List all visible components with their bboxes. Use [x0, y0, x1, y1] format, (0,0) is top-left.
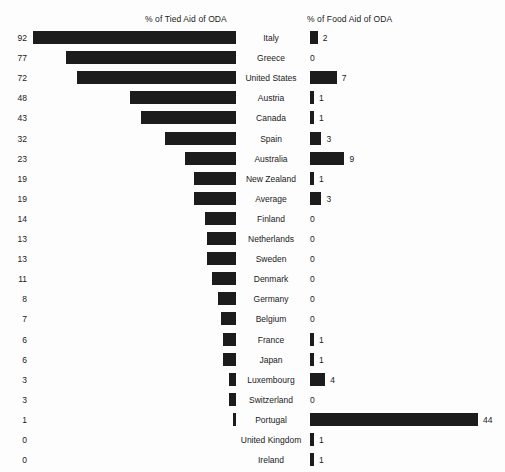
country-label: Luxembourg	[240, 370, 302, 390]
left-bar-track	[0, 450, 236, 470]
chart-row: 6France1	[0, 330, 505, 350]
left-bar-track	[0, 370, 236, 390]
left-bar	[221, 312, 236, 325]
left-bar-track	[0, 309, 236, 329]
left-bar	[165, 132, 236, 145]
right-value-label: 9	[349, 149, 354, 169]
right-value-label: 3	[326, 129, 331, 149]
country-label: Belgium	[240, 309, 302, 329]
chart-row: 72United States7	[0, 68, 505, 88]
chart-row: 11Denmark0	[0, 269, 505, 289]
left-bar	[212, 272, 236, 285]
right-bar	[310, 31, 318, 44]
right-bar	[310, 433, 314, 446]
left-column-header: % of Tied Aid of ODA	[145, 14, 227, 24]
left-bar	[66, 51, 236, 64]
chart-row: 7Belgium0	[0, 309, 505, 329]
country-label: Netherlands	[240, 229, 302, 249]
country-label: Switzerland	[240, 390, 302, 410]
country-label: United States	[240, 68, 302, 88]
right-value-label: 3	[326, 189, 331, 209]
right-bar	[310, 413, 478, 426]
chart-row: 19Average3	[0, 189, 505, 209]
chart-row: 0United Kingdom1	[0, 430, 505, 450]
right-value-label: 7	[342, 68, 347, 88]
left-bar-track	[0, 289, 236, 309]
left-bar-track	[0, 149, 236, 169]
right-bar	[310, 152, 344, 165]
left-bar-track	[0, 88, 236, 108]
right-value-label: 1	[319, 350, 324, 370]
right-value-label: 0	[310, 48, 315, 68]
right-bar	[310, 132, 321, 145]
chart-row: 43Canada1	[0, 108, 505, 128]
bar-chart-tied-and-food-aid: % of Tied Aid of ODA % of Food Aid of OD…	[0, 0, 505, 472]
right-value-label: 1	[319, 88, 324, 108]
left-bar	[141, 111, 236, 124]
left-bar-track	[0, 229, 236, 249]
country-label: Average	[240, 189, 302, 209]
left-bar-track	[0, 108, 236, 128]
chart-row: 13Netherlands0	[0, 229, 505, 249]
chart-row: 19New Zealand1	[0, 169, 505, 189]
country-label: France	[240, 330, 302, 350]
chart-row: 92Italy2	[0, 28, 505, 48]
chart-row: 3Luxembourg4	[0, 370, 505, 390]
chart-row: 8Germany0	[0, 289, 505, 309]
left-bar-track	[0, 350, 236, 370]
country-label: Germany	[240, 289, 302, 309]
chart-row: 77Greece0	[0, 48, 505, 68]
left-bar	[130, 91, 236, 104]
right-value-label: 1	[319, 330, 324, 350]
country-label: Spain	[240, 129, 302, 149]
right-bar	[310, 172, 314, 185]
left-bar	[223, 353, 236, 366]
left-bar-track	[0, 269, 236, 289]
country-label: Japan	[240, 350, 302, 370]
country-label: United Kingdom	[240, 430, 302, 450]
left-bar-track	[0, 189, 236, 209]
country-label: Portugal	[240, 410, 302, 430]
right-column-header: % of Food Aid of ODA	[307, 14, 392, 24]
left-bar	[229, 393, 236, 406]
right-value-label: 44	[483, 410, 492, 430]
right-value-label: 0	[310, 229, 315, 249]
right-value-label: 0	[310, 269, 315, 289]
right-value-label: 0	[310, 309, 315, 329]
right-value-label: 1	[319, 430, 324, 450]
right-value-label: 0	[310, 289, 315, 309]
country-label: New Zealand	[240, 169, 302, 189]
left-bar	[194, 192, 236, 205]
left-bar	[205, 212, 236, 225]
left-bar-track	[0, 390, 236, 410]
left-bar-track	[0, 129, 236, 149]
right-value-label: 1	[319, 169, 324, 189]
left-bar-track	[0, 330, 236, 350]
left-bar-track	[0, 249, 236, 269]
country-label: Denmark	[240, 269, 302, 289]
left-bar	[185, 152, 236, 165]
chart-row: 1Portugal44	[0, 410, 505, 430]
country-label: Australia	[240, 149, 302, 169]
right-value-label: 1	[319, 108, 324, 128]
right-value-label: 2	[323, 28, 328, 48]
left-bar-track	[0, 430, 236, 450]
country-label: Ireland	[240, 450, 302, 470]
country-label: Finland	[240, 209, 302, 229]
right-bar	[310, 192, 321, 205]
left-bar-track	[0, 410, 236, 430]
right-value-label: 0	[310, 209, 315, 229]
chart-row: 48Austria1	[0, 88, 505, 108]
left-bar	[229, 373, 236, 386]
left-bar	[218, 292, 236, 305]
right-bar	[310, 71, 337, 84]
right-bar	[310, 91, 314, 104]
left-bar-track	[0, 169, 236, 189]
left-bar-track	[0, 209, 236, 229]
country-label: Austria	[240, 88, 302, 108]
left-bar	[207, 232, 236, 245]
country-label: Greece	[240, 48, 302, 68]
right-bar	[310, 373, 325, 386]
left-bar-track	[0, 28, 236, 48]
right-bar	[310, 353, 314, 366]
